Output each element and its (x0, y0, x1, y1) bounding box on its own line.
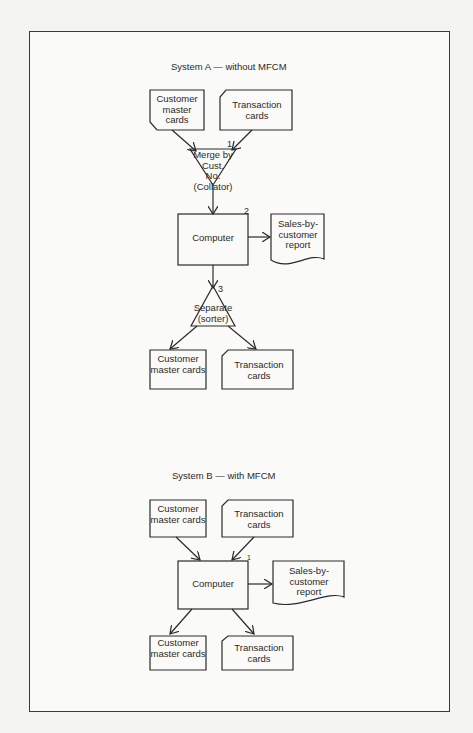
customer-master-cards-b-top-label: Customer master cards (150, 504, 206, 525)
step-number-3-a: 3 (218, 284, 223, 294)
report-a-label: Sales-by-customer report (273, 219, 323, 251)
customer-master-cards-a-top-label: Customer master cards (150, 94, 204, 126)
report-b-label: Sales-by-customer report (278, 566, 340, 598)
separate-label: Separate (sorter) (188, 303, 238, 324)
transaction-cards-b-bottom-label: Transaction cards (226, 643, 292, 664)
system-a-title: System A — without MFCM (171, 61, 287, 72)
separate-line-1: Separate (188, 303, 238, 314)
computer-b-label: Computer (178, 579, 248, 590)
customer-master-cards-b-bottom-label: Customer master cards (150, 638, 206, 659)
transaction-cards-b-top-label: Transaction cards (226, 509, 292, 530)
merge-label: Merge by Cust. No. (Collator) (188, 150, 238, 192)
computer-a-label: Computer (178, 233, 248, 244)
step-number-1-b: 1 (247, 554, 251, 561)
transaction-cards-a-bottom-label: Transaction cards (226, 360, 292, 381)
separate-line-2: (sorter) (188, 314, 238, 325)
system-b-title: System B — with MFCM (172, 470, 275, 481)
transaction-cards-a-top-label: Transaction cards (224, 100, 290, 121)
step-number-1-a: 1 (227, 139, 232, 149)
merge-line-3: No. (188, 171, 238, 182)
step-number-2-a: 2 (244, 206, 249, 216)
customer-master-cards-a-bottom-label: Customer master cards (150, 354, 206, 375)
merge-line-1: Merge by (188, 150, 238, 161)
merge-line-4: (Collator) (188, 182, 238, 193)
